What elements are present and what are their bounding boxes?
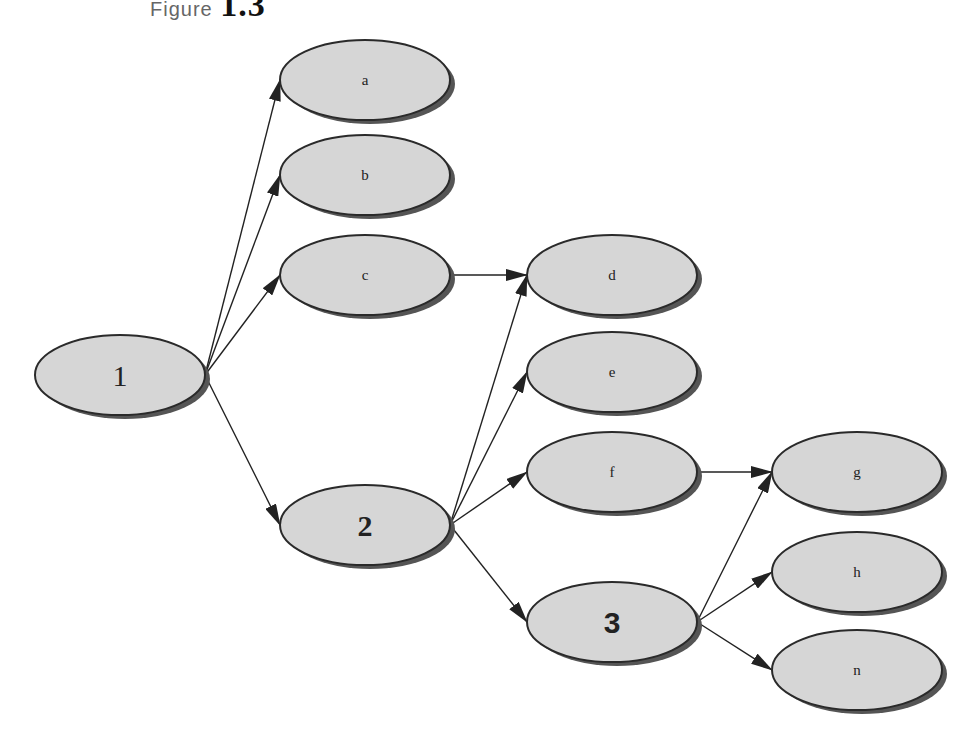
flow-diagram: 1abc2def3ghn	[0, 0, 978, 741]
node-d: d	[527, 235, 702, 319]
node-a: a	[280, 40, 455, 124]
node-b: b	[280, 135, 455, 219]
node-label: f	[610, 464, 615, 480]
node-label: n	[853, 662, 861, 678]
edge-1-to-a	[205, 80, 280, 375]
edge-1-to-c	[205, 275, 280, 375]
node-label: b	[361, 167, 369, 183]
node-e: e	[527, 332, 702, 416]
nodes-layer: 1abc2def3ghn	[35, 40, 947, 714]
node-label: g	[853, 464, 861, 480]
edge-3-to-n	[697, 622, 772, 670]
node-label: a	[362, 72, 369, 88]
node-label: d	[608, 267, 616, 283]
edge-3-to-g	[697, 472, 772, 622]
node-label: 3	[604, 606, 621, 639]
edge-2-to-3	[450, 525, 527, 622]
node-1: 1	[35, 335, 210, 419]
node-label: e	[609, 364, 616, 380]
edge-2-to-f	[450, 472, 527, 525]
edge-2-to-e	[450, 372, 527, 525]
edge-1-to-b	[205, 175, 280, 375]
node-n: n	[772, 630, 947, 714]
node-label: h	[853, 564, 861, 580]
edge-2-to-d	[450, 275, 527, 525]
node-h: h	[772, 532, 947, 616]
node-label: c	[362, 267, 369, 283]
node-c: c	[280, 235, 455, 319]
node-f: f	[527, 432, 702, 516]
node-2: 2	[280, 485, 455, 569]
node-3: 3	[527, 582, 702, 666]
node-g: g	[772, 432, 947, 516]
node-label: 1	[113, 359, 128, 392]
edge-1-to-2	[205, 375, 280, 525]
node-label: 2	[358, 509, 373, 542]
edge-3-to-h	[697, 572, 772, 622]
